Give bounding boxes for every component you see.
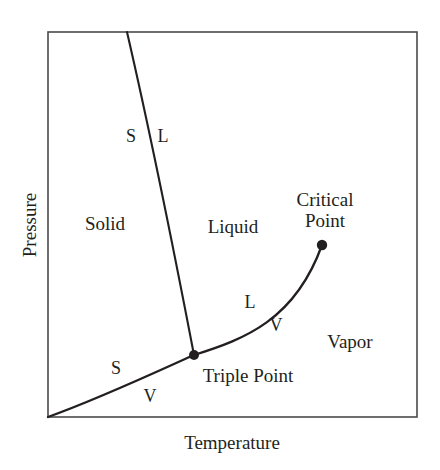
vaporization-curve-tag-vapor: V xyxy=(270,315,283,335)
triple-point-marker xyxy=(189,350,199,360)
fusion-curve-tag-liquid: L xyxy=(158,126,169,146)
vaporization-curve xyxy=(194,245,322,355)
region-label-vapor: Vapor xyxy=(327,331,372,352)
phase-diagram-figure: Solid Liquid Vapor S L L V S V Triple Po… xyxy=(0,0,440,470)
region-label-solid: Solid xyxy=(85,213,125,234)
critical-point-label-line2: Point xyxy=(297,210,354,231)
sublimation-curve-tag-vapor: V xyxy=(144,386,157,406)
triple-point-label: Triple Point xyxy=(203,365,294,386)
y-axis-title: Pressure xyxy=(19,193,40,257)
critical-point-label: Critical Point xyxy=(297,189,354,232)
x-axis-title: Temperature xyxy=(184,432,280,453)
critical-point-label-line1: Critical xyxy=(297,189,354,210)
vaporization-curve-tag-liquid: L xyxy=(245,292,256,312)
fusion-curve xyxy=(127,32,194,355)
sublimation-curve-tag-solid: S xyxy=(111,358,121,378)
region-label-liquid: Liquid xyxy=(208,216,259,237)
fusion-curve-tag-solid: S xyxy=(126,126,136,146)
critical-point-marker xyxy=(317,240,327,250)
